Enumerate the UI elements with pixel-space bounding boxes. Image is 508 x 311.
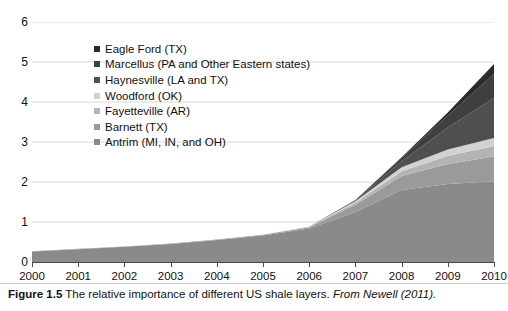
figure-container: 0123456 20002001200220032004200520062007…	[0, 0, 508, 311]
legend-label: Haynesville (LA and TX)	[105, 74, 228, 86]
caption-figure-number: Figure 1.5	[8, 288, 62, 300]
x-tick-mark	[309, 262, 310, 267]
y-tick-label: 6	[2, 16, 28, 28]
caption-text: The relative importance of different US …	[65, 288, 329, 300]
legend-item: Barnett (TX)	[94, 119, 310, 135]
legend-item: Antrim (MI, IN, and OH)	[94, 135, 310, 151]
legend-label: Antrim (MI, IN, and OH)	[105, 136, 226, 148]
chart-legend: Eagle Ford (TX)Marcellus (PA and Other E…	[94, 41, 310, 150]
x-tick-label: 2005	[239, 270, 287, 283]
x-tick-mark	[124, 262, 125, 267]
legend-swatch-icon	[94, 77, 100, 83]
y-tick-label: 4	[2, 96, 28, 108]
figure-caption: Figure 1.5 The relative importance of di…	[8, 287, 503, 302]
x-tick-label: 2000	[8, 270, 56, 283]
x-tick-mark	[263, 262, 264, 267]
x-tick-label: 2010	[470, 270, 508, 283]
legend-label: Barnett (TX)	[105, 121, 168, 133]
legend-swatch-icon	[94, 61, 100, 67]
x-tick-label: 2003	[147, 270, 195, 283]
x-tick-label: 2004	[193, 270, 241, 283]
y-tick-label: 5	[2, 56, 28, 68]
legend-label: Marcellus (PA and Other Eastern states)	[105, 58, 310, 70]
x-tick-label: 2006	[285, 270, 333, 283]
x-tick-mark	[78, 262, 79, 267]
x-tick-mark	[494, 262, 495, 267]
legend-label: Woodford (OK)	[105, 90, 182, 102]
legend-item: Marcellus (PA and Other Eastern states)	[94, 57, 310, 73]
legend-swatch-icon	[94, 46, 100, 52]
legend-swatch-icon	[94, 93, 100, 99]
caption-divider	[0, 283, 508, 284]
legend-swatch-icon	[94, 139, 100, 145]
x-tick-label: 2002	[100, 270, 148, 283]
y-tick-label: 2	[2, 176, 28, 188]
legend-swatch-icon	[94, 108, 100, 114]
legend-swatch-icon	[94, 124, 100, 130]
legend-item: Eagle Ford (TX)	[94, 41, 310, 57]
legend-item: Fayetteville (AR)	[94, 103, 310, 119]
y-axis: 0123456	[0, 0, 28, 262]
legend-label: Eagle Ford (TX)	[105, 43, 187, 55]
x-tick-mark	[402, 262, 403, 267]
legend-label: Fayetteville (AR)	[105, 105, 190, 117]
y-tick-label: 0	[2, 256, 28, 268]
x-tick-label: 2009	[424, 270, 472, 283]
y-tick-label: 3	[2, 136, 28, 148]
caption-source: From Newell (2011).	[333, 288, 436, 300]
x-tick-mark	[217, 262, 218, 267]
x-tick-mark	[32, 262, 33, 267]
x-tick-mark	[448, 262, 449, 267]
y-tick-label: 1	[2, 216, 28, 228]
x-tick-mark	[355, 262, 356, 267]
x-tick-label: 2001	[54, 270, 102, 283]
x-tick-label: 2008	[378, 270, 426, 283]
legend-item: Woodford (OK)	[94, 88, 310, 104]
legend-item: Haynesville (LA and TX)	[94, 72, 310, 88]
x-tick-label: 2007	[331, 270, 379, 283]
x-tick-mark	[171, 262, 172, 267]
